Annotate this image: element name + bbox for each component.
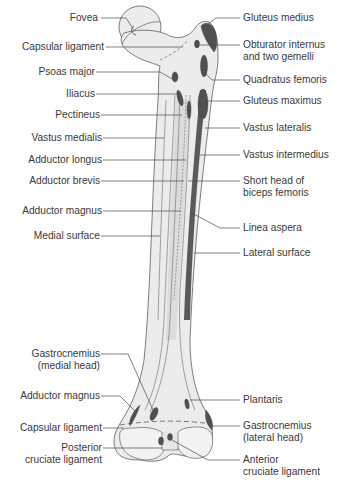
label-gastrocnemius-medial-line1: Gastrocnemius [31,348,100,360]
gluteus-maximus-attachment [198,89,208,119]
femur-shaft [114,21,218,461]
label-short-head-biceps-line2: biceps femoris [243,187,309,199]
label-gastrocnemius-lateral: Gastrocnemius (lateral head) [243,420,312,444]
label-gastrocnemius-medial-line2: (medial head) [31,360,100,372]
label-fovea: Fovea [70,12,98,24]
label-anterior-cruciate-line1: Anterior [243,454,320,466]
label-capsular-ligament-top: Capsular ligament [22,41,104,53]
label-gluteus-maximus: Gluteus maximus [243,95,322,107]
label-lateral-surface: Lateral surface [243,247,310,259]
label-adductor-longus: Adductor longus [28,154,102,166]
label-obturator-internus-line2: and two gemelli [243,51,325,63]
label-anterior-cruciate-line2: cruciate ligament [243,466,320,478]
label-plantaris: Plantaris [243,394,283,406]
label-short-head-biceps: Short head of biceps femoris [243,175,309,199]
psoas-major-attachment [172,72,178,82]
label-anterior-cruciate: Anterior cruciate ligament [243,454,320,478]
label-gastrocnemius-medial: Gastrocnemius (medial head) [31,348,100,372]
anterior-cruciate-attachment [168,434,173,441]
posterior-cruciate-attachment [159,437,164,445]
label-vastus-medialis: Vastus medialis [31,132,102,144]
label-linea-aspera: Linea aspera [243,222,302,234]
pectineus-attachment [187,101,191,119]
label-quadratus-femoris: Quadratus femoris [243,74,327,86]
label-obturator-internus: Obturator internus and two gemelli [243,39,325,63]
label-gastrocnemius-lateral-line2: (lateral head) [243,432,312,444]
label-gastrocnemius-lateral-line1: Gastrocnemius [243,420,312,432]
label-iliacus: Iliacus [66,88,95,100]
label-posterior-cruciate-line2: cruciate ligament [25,454,102,466]
label-medial-surface: Medial surface [34,230,100,242]
label-vastus-lateralis: Vastus lateralis [243,122,311,134]
label-vastus-intermedius: Vastus intermedius [243,149,329,161]
label-posterior-cruciate: Posterior cruciate ligament [25,442,102,466]
label-posterior-cruciate-line1: Posterior [25,442,102,454]
label-adductor-brevis: Adductor brevis [29,175,100,187]
label-psoas-major: Psoas major [38,66,95,78]
label-capsular-ligament-bottom: Capsular ligament [20,422,102,434]
quadratus-femoris-attachment [201,55,208,77]
obturator-attachment [195,40,200,48]
label-adductor-magnus-top: Adductor magnus [22,205,102,217]
label-obturator-internus-line1: Obturator internus [243,39,325,51]
label-short-head-biceps-line1: Short head of [243,175,309,187]
label-gluteus-medius: Gluteus medius [243,12,314,24]
label-adductor-magnus-bottom: Adductor magnus [20,390,100,402]
label-pectineus: Pectineus [55,109,100,121]
